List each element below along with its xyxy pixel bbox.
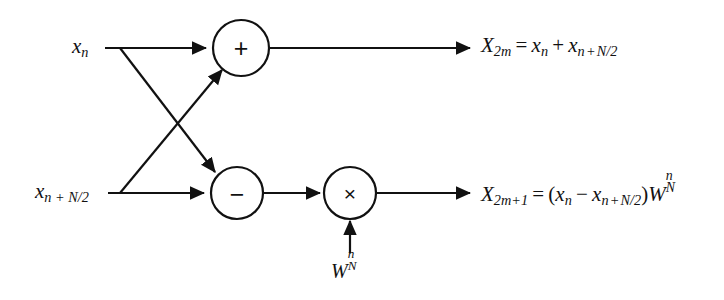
out1-plus: +	[548, 33, 568, 57]
edge-bottom-branch-to-adder	[120, 70, 222, 193]
out2-term-1-base: x	[555, 182, 564, 206]
input-label-x-n-plus-N-2: xn + N/2	[35, 181, 89, 202]
multiplier-symbol: ×	[330, 183, 370, 204]
out1-term-1-subscript: n	[541, 43, 548, 59]
out2-term-1-subscript: n	[565, 192, 572, 208]
input-x-n2-base: x	[35, 179, 44, 203]
input-x-n2-subscript: n + N/2	[44, 189, 89, 205]
figure-canvas: + − × xn xn + N/2 WnN X2m = xn + xn + N/…	[0, 0, 724, 300]
edge-top-branch-to-subtractor	[120, 48, 215, 172]
twiddle-indices: nN	[348, 258, 360, 278]
out2-twiddle-indices: nN	[666, 180, 679, 201]
out2-equals: =	[532, 182, 544, 206]
output-equation-X-2m-plus-1: X2m+1 = (xn − xn + N/2)WnN	[481, 180, 679, 205]
out2-lhs-subscript: 2m+1	[494, 192, 528, 208]
subtractor-symbol: −	[217, 182, 257, 207]
out1-lhs-base: X	[481, 33, 494, 57]
twiddle-base: W	[331, 260, 348, 282]
out1-lhs-subscript: 2m	[494, 43, 511, 59]
out2-lhs-base: X	[481, 182, 494, 206]
out2-minus: −	[572, 182, 592, 206]
out1-term-2-base: x	[568, 33, 577, 57]
out1-equals: =	[515, 33, 527, 57]
input-x-n-subscript: n	[81, 44, 88, 60]
out2-term-2-base: x	[592, 182, 601, 206]
input-x-n-base: x	[72, 34, 81, 58]
twiddle-factor-label: WnN	[331, 258, 360, 281]
out1-term-2-subscript: n + N/2	[578, 43, 618, 59]
out2-twiddle-base: W	[648, 182, 666, 206]
output-equation-X-2m: X2m = xn + xn + N/2	[481, 35, 617, 56]
out2-term-2-subscript: n + N/2	[601, 192, 641, 208]
input-label-x-n: xn	[72, 36, 88, 57]
out1-term-1-base: x	[532, 33, 541, 57]
adder-symbol: +	[221, 36, 261, 61]
